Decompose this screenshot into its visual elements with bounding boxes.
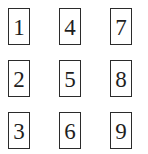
card-label: 5 <box>64 68 76 91</box>
card-label: 2 <box>13 68 25 91</box>
number-card-2[interactable]: 2 <box>8 60 30 97</box>
number-card-1[interactable]: 1 <box>8 8 30 45</box>
card-label: 7 <box>115 16 127 39</box>
number-card-grid: 1 2 3 4 5 6 7 8 9 <box>0 0 148 154</box>
number-card-9[interactable]: 9 <box>110 112 132 149</box>
number-card-8[interactable]: 8 <box>110 60 132 97</box>
card-label: 4 <box>64 16 76 39</box>
number-card-4[interactable]: 4 <box>59 8 81 45</box>
card-label: 9 <box>115 120 127 143</box>
number-card-3[interactable]: 3 <box>8 112 30 149</box>
card-label: 3 <box>13 120 25 143</box>
number-card-5[interactable]: 5 <box>59 60 81 97</box>
number-card-6[interactable]: 6 <box>59 112 81 149</box>
number-card-7[interactable]: 7 <box>110 8 132 45</box>
card-label: 1 <box>13 16 25 39</box>
card-label: 8 <box>115 68 127 91</box>
card-label: 6 <box>64 120 76 143</box>
